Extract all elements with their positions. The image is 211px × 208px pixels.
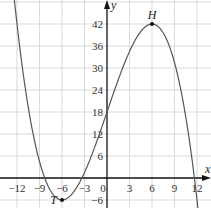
x-tick-label: 3: [127, 182, 133, 194]
y-tick-label: −6: [91, 194, 103, 206]
y-tick-label: 24: [92, 84, 104, 96]
x-tick-label: 0: [100, 182, 106, 194]
y-tick-label: 30: [92, 62, 104, 74]
x-tick-label: −6: [56, 182, 68, 194]
x-tick-label: −3: [79, 182, 91, 194]
x-tick-label: −9: [34, 182, 46, 194]
x-tick-label: −12: [8, 182, 25, 194]
y-tick-label: 36: [92, 40, 104, 52]
y-axis-arrow-icon: [104, 0, 110, 9]
point-h-marker: [150, 22, 154, 26]
x-tick-label: 12: [192, 182, 203, 194]
point-h-label: H: [147, 8, 158, 22]
point-t-marker: [60, 198, 64, 202]
y-tick-label: 6: [98, 150, 104, 162]
x-tick-label: 6: [149, 182, 155, 194]
x-tick-label: 9: [172, 182, 178, 194]
function-curve: [8, 0, 202, 208]
y-tick-label: 42: [92, 18, 103, 30]
y-tick-label: 18: [92, 106, 104, 118]
function-plot: xy−12−9−6−3036912−66121824303642HT: [0, 0, 211, 208]
y-axis-label: y: [110, 0, 117, 12]
x-axis-label: x: [204, 162, 211, 176]
